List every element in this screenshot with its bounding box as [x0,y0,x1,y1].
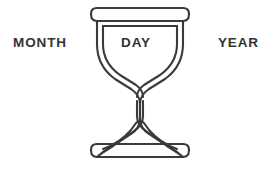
hourglass-icon [0,0,272,173]
label-year: YEAR [218,36,259,50]
hourglass-date-figure: MONTH DAY YEAR [0,0,272,173]
hourglass-top-cap [91,8,189,21]
